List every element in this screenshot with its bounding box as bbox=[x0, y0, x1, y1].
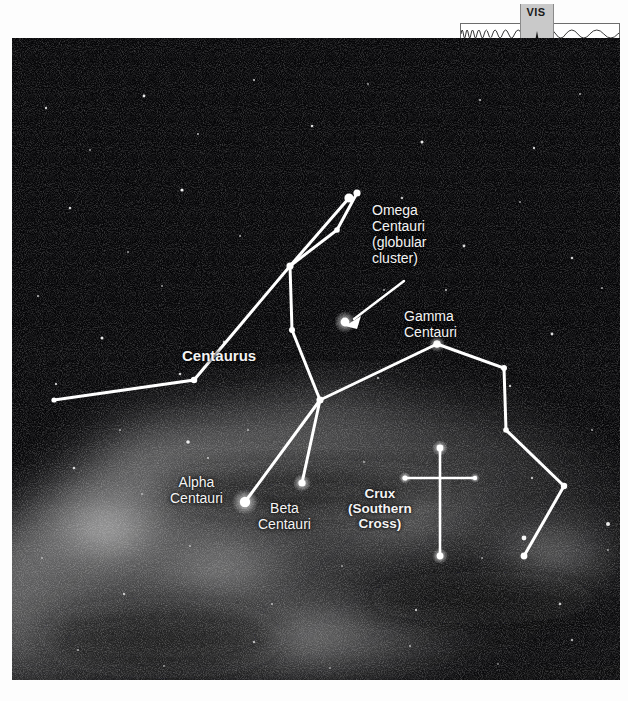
named-star-alpha-centauri bbox=[232, 489, 258, 515]
vis-band-label: VIS bbox=[521, 6, 551, 18]
sky-canvas bbox=[12, 38, 620, 680]
star-field-photograph bbox=[12, 38, 620, 680]
figure-page: VIS bbox=[0, 0, 628, 701]
named-star-beta-centauri bbox=[293, 474, 311, 492]
named-star-gamma-centauri bbox=[429, 336, 445, 352]
